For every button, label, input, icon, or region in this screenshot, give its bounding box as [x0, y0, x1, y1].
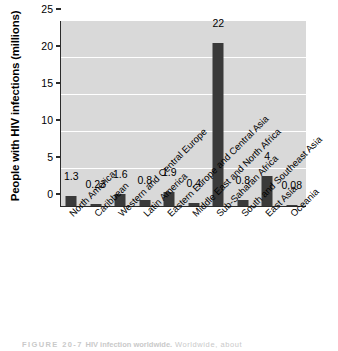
y-axis-tick-label: 10	[41, 114, 56, 126]
bar-value-label: 1.9	[162, 166, 177, 178]
y-axis-tick-mark	[56, 119, 61, 121]
bar	[164, 192, 175, 206]
y-axis-tick: 0	[47, 188, 61, 200]
gridline	[61, 57, 306, 59]
bar	[115, 194, 126, 206]
y-axis-tick-label: 20	[41, 40, 56, 52]
y-axis-title: People with HIV infections (millions)	[9, 6, 21, 206]
y-axis-tick-label: 25	[41, 3, 56, 15]
y-axis-tick-label: 0	[47, 188, 56, 200]
bar	[66, 196, 77, 206]
bar	[139, 200, 150, 206]
y-axis-tick: 5	[47, 151, 61, 163]
gridline	[61, 168, 306, 170]
gridline	[61, 20, 306, 22]
y-axis-tick-mark	[56, 156, 61, 158]
bar-value-label: 0.08	[282, 179, 302, 191]
gridline	[61, 131, 306, 133]
bar-value-label: 0.8	[235, 174, 250, 186]
y-axis-tick-mark	[56, 45, 61, 47]
bar-value-label: 4	[264, 150, 270, 162]
y-axis-tick-label: 15	[41, 77, 56, 89]
bar	[262, 176, 273, 206]
plot-area: 05101520251.30.231.60.81.90.4220.840.08	[60, 21, 306, 207]
bar-value-label: 1.6	[113, 168, 128, 180]
figure-caption: FIGURE 20-7 HIV infection worldwide. Wor…	[22, 340, 322, 349]
y-axis-tick-mark	[56, 8, 61, 10]
caption-title: HIV infection worldwide.	[86, 340, 173, 349]
bar	[286, 205, 297, 207]
y-axis-tick: 10	[41, 114, 61, 126]
y-axis-tick: 15	[41, 77, 61, 89]
y-axis-tick-label: 5	[47, 151, 56, 163]
bar-value-label: 22	[212, 17, 224, 29]
bar-value-label: 0.4	[186, 177, 201, 189]
figure-hiv-infection-worldwide: People with HIV infections (millions) 05…	[0, 0, 338, 351]
y-axis-tick-mark	[56, 82, 61, 84]
bar-value-label: 0.8	[137, 174, 152, 186]
gridline	[61, 94, 306, 96]
caption-figure-number: FIGURE 20-7	[22, 340, 83, 349]
bar-value-label: 0.23	[86, 178, 106, 190]
bar	[213, 43, 224, 206]
bar	[90, 204, 101, 206]
bar	[237, 200, 248, 206]
y-axis-tick: 25	[41, 3, 61, 15]
y-axis-tick: 20	[41, 40, 61, 52]
bar-value-label: 1.3	[64, 170, 79, 182]
caption-text: Worldwide, about	[175, 340, 242, 349]
y-axis-tick-mark	[56, 193, 61, 195]
bar	[188, 203, 199, 206]
